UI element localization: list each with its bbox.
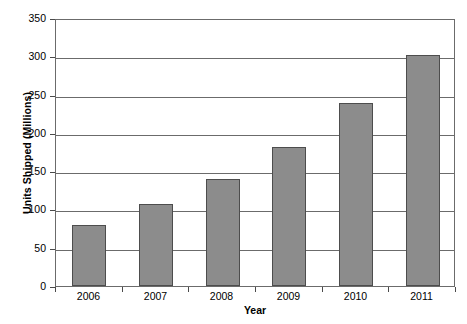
bar-2009 [272,147,306,286]
bar-2010 [339,103,373,286]
y-tick-label: 150 [20,166,46,177]
y-tick-mark [50,249,55,250]
y-tick-mark [50,57,55,58]
y-tick-mark [50,210,55,211]
bar-2008 [206,179,240,286]
bar-chart: Units Shipped (Millions) 050100150200250… [0,0,467,324]
bar-2006 [72,225,106,286]
y-tick-mark [50,96,55,97]
gridline [56,58,454,59]
y-tick-label: 200 [20,128,46,139]
gridline [56,250,454,251]
gridline [56,211,454,212]
y-tick-mark [50,172,55,173]
x-tick-mark [55,287,56,292]
bar-2011 [406,55,440,286]
x-tick-label-2009: 2009 [255,290,322,302]
gridline [56,97,454,98]
y-tick-mark [50,134,55,135]
y-tick-label: 50 [20,243,46,254]
x-tick-mark [455,287,456,292]
y-tick-label: 100 [20,204,46,215]
x-tick-label-2007: 2007 [122,290,189,302]
gridline [56,135,454,136]
gridline [56,173,454,174]
plot-area [55,19,455,287]
x-tick-label-2011: 2011 [388,290,455,302]
y-tick-mark [50,19,55,20]
y-tick-label: 300 [20,51,46,62]
bar-2007 [139,204,173,286]
x-axis-title: Year [55,304,455,316]
x-tick-label-2010: 2010 [322,290,389,302]
x-tick-label-2008: 2008 [188,290,255,302]
y-tick-label: 250 [20,90,46,101]
y-tick-label: 0 [20,281,46,292]
x-tick-label-2006: 2006 [55,290,122,302]
y-tick-label: 350 [20,13,46,24]
